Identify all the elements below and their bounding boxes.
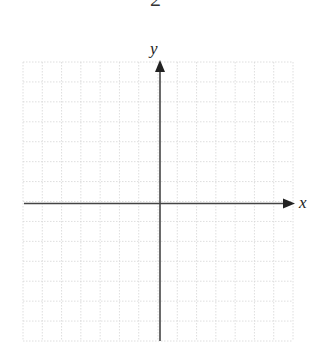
x-axis-label: x <box>298 193 307 212</box>
y-axis-label: y <box>148 39 158 58</box>
coordinate-plane: x y <box>0 0 327 358</box>
grid <box>23 62 293 341</box>
